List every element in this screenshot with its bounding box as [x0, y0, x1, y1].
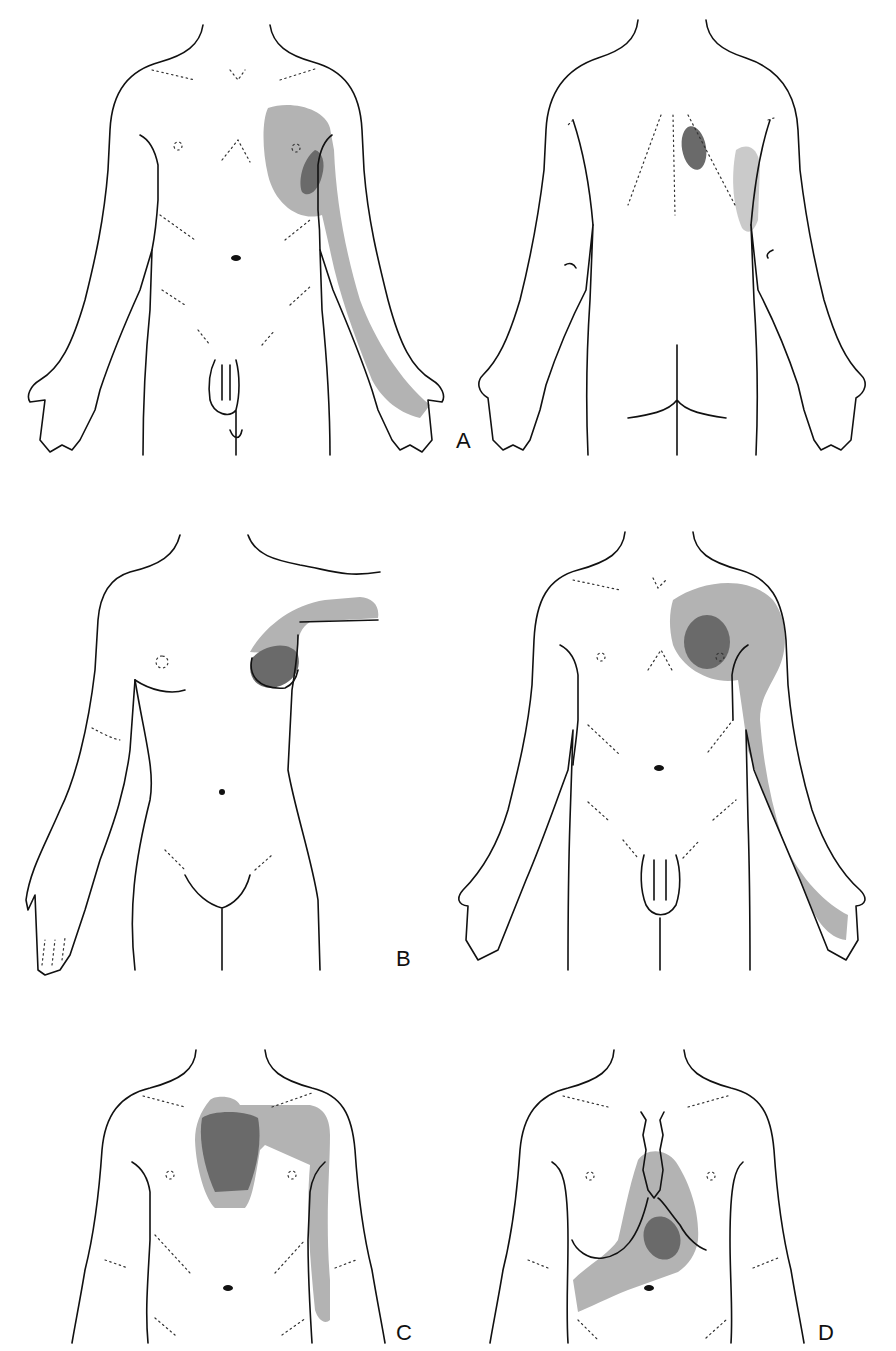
primary-pain-area — [678, 124, 709, 171]
referred-pain-figure: A B — [0, 0, 896, 1351]
panel-label-a: A — [456, 428, 471, 454]
body-outline-anterior-female — [0, 500, 448, 980]
panel-label-d: D — [818, 1320, 834, 1346]
panel-c: C — [0, 1040, 448, 1351]
body-outline-anterior-torso — [0, 1040, 448, 1351]
referred-pain-area — [733, 146, 760, 231]
panel-label-c: C — [396, 1320, 412, 1346]
body-outline-anterior-male — [448, 520, 896, 980]
body-outline-anterior-male — [0, 0, 448, 460]
panel-a-posterior: A — [448, 0, 896, 460]
panel-label-b: B — [396, 946, 411, 972]
body-outline-posterior-male — [448, 0, 896, 460]
body-outline-anterior-torso — [448, 1040, 896, 1351]
primary-pain-area — [684, 615, 730, 669]
panel-a-anterior — [0, 0, 448, 460]
panel-d: D — [448, 1040, 896, 1351]
referred-pain-area — [264, 105, 431, 418]
panel-b-female: B — [0, 500, 448, 980]
panel-b-male — [448, 520, 896, 980]
referred-pain-area — [250, 597, 378, 655]
